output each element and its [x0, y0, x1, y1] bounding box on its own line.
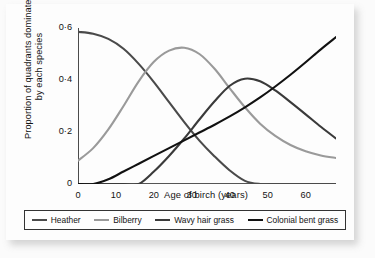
- legend-item[interactable]: Colonial bent grass: [248, 215, 339, 225]
- legend-label: Wavy hair grass: [174, 215, 234, 225]
- legend-item[interactable]: Heather: [32, 215, 81, 225]
- series-line-bilberry: [78, 48, 336, 161]
- x-axis-label: Age of birch (years): [76, 189, 336, 200]
- legend: HeatherBilberryWavy hair grassColonial b…: [24, 210, 346, 230]
- chart-figure: Proportion of quadrants dominated by eac…: [0, 0, 375, 258]
- legend-item[interactable]: Bilberry: [94, 215, 141, 225]
- legend-swatch-icon: [94, 219, 109, 221]
- legend-swatch-icon: [155, 219, 170, 221]
- y-axis-label: Proportion of quadrants dominated by eac…: [23, 0, 44, 142]
- y-tick-label: 0·6: [46, 22, 72, 32]
- y-tick-label: 0: [46, 178, 72, 188]
- y-tick-label: 0·4: [46, 74, 72, 84]
- y-tick-label: 0·2: [46, 126, 72, 136]
- legend-label: Bilberry: [113, 215, 141, 225]
- legend-label: Heather: [51, 215, 81, 225]
- plot-area: [78, 28, 336, 184]
- series-line-wavy-hair-grass: [78, 78, 336, 184]
- legend-swatch-icon: [248, 219, 263, 221]
- legend-swatch-icon: [32, 219, 47, 221]
- legend-label: Colonial bent grass: [267, 215, 339, 225]
- plot-svg: [78, 28, 336, 184]
- chart-card: Proportion of quadrants dominated by eac…: [6, 4, 354, 240]
- legend-item[interactable]: Wavy hair grass: [155, 215, 234, 225]
